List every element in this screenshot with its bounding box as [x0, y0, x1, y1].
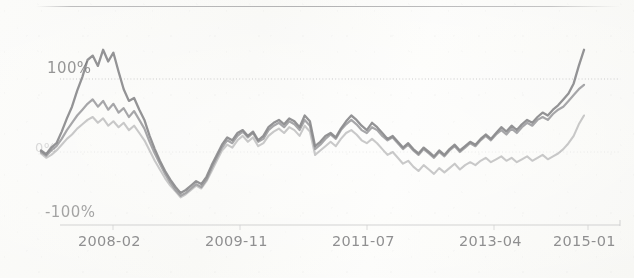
x-axis-label-2: 2009-11	[205, 233, 268, 249]
x-axis-label-5: 2015-01	[553, 233, 616, 249]
x-axis-label-3: 2011-07	[332, 233, 395, 249]
y-axis-label-negative-100-percent: -100%	[45, 203, 95, 221]
chart-page: 100% 0% -100% 2008-02 2009-11 2011-07 20…	[0, 0, 634, 278]
x-axis-label-4: 2013-04	[459, 233, 522, 249]
y-axis-label-100-percent: 100%	[47, 59, 91, 77]
data-line-series-1	[41, 50, 584, 193]
x-axis-label-1: 2008-02	[78, 233, 141, 249]
data-line-series-2	[41, 85, 584, 196]
x-axis-ticks	[113, 225, 588, 230]
y-axis-label-0-percent: 0%	[35, 140, 56, 155]
